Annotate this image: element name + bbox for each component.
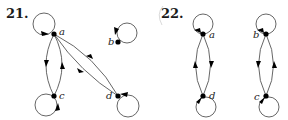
node-label-b: b [108,36,114,47]
node-label-d: d [209,90,215,101]
figure-number-21: 21. [6,6,29,21]
node-label-d: d [106,90,112,101]
edge-b-c [256,34,266,96]
figure-21: 21. [6,6,139,117]
edge-c-b [266,34,277,96]
arrowhead-icon [272,61,277,68]
arrowhead-icon [44,60,49,67]
node-label-c: c [59,90,65,101]
node-b [115,39,120,44]
edge-a-d [203,34,214,96]
edge-a-c [44,34,54,96]
loop-c-c [259,97,279,117]
arrowhead-icon [55,103,60,111]
edge-d-a [193,34,203,96]
node-label-a: a [209,29,215,40]
node-label-a: a [59,26,65,37]
node-d [115,93,120,98]
node-a [200,31,205,36]
node-b [263,31,268,36]
node-c [263,93,268,98]
arrowhead-icon [209,61,214,68]
edge-c-a [54,34,65,96]
node-label-b: b [253,29,259,40]
figure-22: 22. [159,6,279,117]
figure-number-22: 22. [161,6,184,21]
node-c [51,93,56,98]
arrowhead-icon [60,62,65,69]
node-d [200,93,205,98]
directed-graph-figures: 21. [0,0,288,120]
node-label-c: c [254,91,260,102]
arrowhead-icon [120,92,128,97]
node-a [51,31,56,36]
loop-a-a [33,13,55,36]
